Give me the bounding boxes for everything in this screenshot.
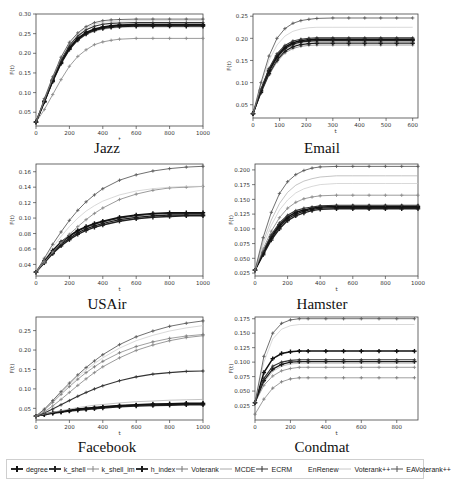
legend-swatch-icon — [48, 465, 62, 473]
x-axis-label: t — [334, 128, 337, 134]
legend-label: EAVoterank++ — [406, 466, 451, 473]
y-tick-label: 0.25 — [236, 13, 249, 19]
y-tick-label: 0.050 — [234, 256, 250, 262]
legend-swatch-icon — [219, 465, 233, 473]
y-tick-label: 0.025 — [234, 270, 250, 276]
y-tick-label: 0.20 — [19, 50, 32, 56]
x-tick-label: 0 — [34, 424, 38, 430]
legend-item-k-shell-im: k_shell_im — [86, 465, 135, 473]
legend-swatch-icon — [255, 465, 269, 473]
legend-swatch-icon — [175, 465, 189, 473]
x-axis-label: t — [118, 286, 121, 292]
chart-condmat: 0.0250.0500.0750.1000.1250.1500.17502004… — [215, 315, 429, 458]
x-tick-label: 1000 — [196, 424, 210, 430]
legend-label: MCDE — [235, 466, 256, 473]
plot-area: 0.050.100.150.200.2502004006008001000tF(… — [0, 315, 214, 440]
x-tick-label: 600 — [131, 424, 142, 430]
y-tick-label: 0.10 — [19, 386, 32, 392]
x-tick-label: 400 — [98, 130, 109, 136]
x-axis-label: t — [335, 286, 338, 292]
legend-item-ecrm: ECRM — [255, 465, 292, 473]
y-tick-label: 0.175 — [234, 182, 250, 188]
x-tick-label: 0 — [34, 280, 38, 286]
y-tick-label: 0.100 — [234, 226, 250, 232]
x-tick-label: 600 — [356, 424, 367, 430]
x-tick-label: 100 — [274, 122, 285, 128]
x-tick-label: 800 — [164, 130, 175, 136]
y-tick-label: 0.175 — [234, 316, 250, 322]
y-tick-label: 0.05 — [19, 109, 32, 115]
y-tick-label: 0.30 — [19, 11, 32, 17]
chart-usair: 0.040.060.080.100.120.140.16020040060080… — [0, 160, 214, 315]
legend-item-enrenew: EnRenew — [292, 465, 338, 473]
y-tick-label: 0.125 — [234, 345, 250, 351]
y-tick-label: 0.150 — [234, 330, 250, 336]
y-tick-label: 0.10 — [19, 90, 32, 96]
y-tick-label: 0.050 — [234, 388, 250, 394]
x-axis-label: t — [335, 430, 338, 436]
axes-frame — [253, 14, 418, 118]
y-axis-label: F(t) — [9, 65, 15, 75]
x-tick-label: 1000 — [196, 280, 210, 286]
x-tick-label: 600 — [131, 130, 142, 136]
chart-legend: degreek_shellk_shell_imh_indexVoterankMC… — [6, 459, 424, 479]
y-tick-label: 0.04 — [19, 262, 32, 268]
chart-title: Email — [215, 140, 429, 157]
y-tick-label: 0.10 — [19, 215, 32, 221]
chart-title: Jazz — [0, 140, 214, 157]
x-tick-label: 600 — [348, 280, 359, 286]
y-tick-label: 0.05 — [236, 102, 249, 108]
y-tick-label: 0.20 — [236, 36, 249, 42]
x-tick-label: 1000 — [196, 130, 210, 136]
axes-frame — [36, 14, 203, 126]
legend-swatch-icon — [338, 465, 352, 473]
y-tick-label: 0.15 — [19, 367, 32, 373]
plot-area: 0.050.100.150.200.250.300200400600800100… — [0, 0, 214, 140]
y-tick-label: 0.12 — [19, 200, 31, 206]
plot-area: 0.040.060.080.100.120.140.16020040060080… — [0, 160, 214, 296]
x-tick-label: 200 — [64, 280, 75, 286]
legend-label: EnRenew — [308, 466, 338, 473]
x-tick-label: 600 — [131, 280, 142, 286]
legend-swatch-icon — [292, 465, 306, 473]
x-tick-label: 800 — [391, 424, 402, 430]
legend-label: k_shell_im — [102, 466, 135, 473]
x-tick-label: 0 — [251, 122, 255, 128]
y-tick-label: 0.25 — [19, 31, 32, 37]
x-tick-label: 800 — [164, 280, 175, 286]
legend-label: k_shell — [64, 466, 86, 473]
legend-swatch-icon — [390, 465, 404, 473]
x-tick-label: 500 — [381, 122, 392, 128]
axes-frame — [255, 317, 418, 420]
legend-item-voterank: Voterank — [175, 465, 219, 473]
legend-swatch-icon — [10, 465, 24, 473]
legend-swatch-icon — [86, 465, 100, 473]
x-tick-label: 200 — [285, 424, 296, 430]
y-tick-label: 0.16 — [19, 169, 32, 175]
legend-item-k-shell: k_shell — [48, 465, 86, 473]
y-tick-label: 0.20 — [19, 347, 32, 353]
chart-title: Hamster — [215, 296, 429, 313]
plot-area: 0.0250.0500.0750.1000.1250.1500.1750.200… — [215, 160, 429, 296]
x-tick-label: 200 — [64, 130, 75, 136]
y-tick-label: 0.125 — [234, 211, 250, 217]
x-tick-label: 1000 — [411, 280, 425, 286]
chart-email: 0.050.100.150.200.250100200300400500600t… — [215, 0, 429, 160]
y-axis-label: F(t) — [228, 364, 234, 374]
y-axis-label: F(t) — [9, 215, 15, 225]
legend-label: Voterank — [191, 466, 219, 473]
x-tick-label: 200 — [301, 122, 312, 128]
legend-label: ECRM — [271, 466, 292, 473]
chart-hamster: 0.0250.0500.0750.1000.1250.1500.1750.200… — [215, 160, 429, 315]
legend-label: h_index — [151, 466, 176, 473]
x-tick-label: 0 — [253, 280, 257, 286]
x-tick-label: 800 — [380, 280, 391, 286]
y-tick-label: 0.06 — [19, 246, 32, 252]
x-tick-label: 400 — [98, 424, 109, 430]
plot-area: 0.050.100.150.200.250100200300400500600t… — [215, 0, 429, 140]
legend-item-mcde: MCDE — [219, 465, 256, 473]
y-tick-label: 0.025 — [234, 403, 250, 409]
x-tick-label: 200 — [282, 280, 293, 286]
legend-label: Voterank++ — [354, 466, 390, 473]
x-tick-label: 0 — [253, 424, 257, 430]
